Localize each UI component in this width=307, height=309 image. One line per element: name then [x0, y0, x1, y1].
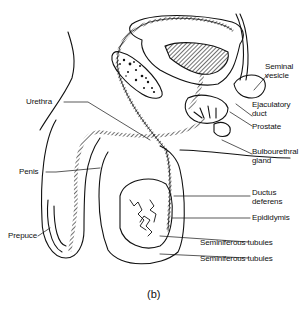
abdomen-outline: [40, 32, 74, 130]
label-penis: Penis: [19, 167, 39, 176]
label-prostate: Prostate: [252, 122, 281, 131]
label-urethra: Urethra: [26, 97, 52, 106]
testis: [120, 179, 172, 248]
label-ejaculatory-duct: Ejaculatory duct: [252, 100, 290, 118]
label-seminiferous-tubules-2: Seminiferous tubules: [200, 254, 273, 263]
label-ductus-deferens: Ductus deferens: [252, 188, 282, 206]
label-prepuce: Prepuce: [8, 231, 37, 240]
scrotum: [99, 146, 184, 264]
seminal-vesicle: [234, 75, 265, 98]
label-seminiferous-tubules-1: Seminiferous tubules: [200, 238, 273, 247]
label-bulbourethral-gland: Bulbourethral gland: [252, 147, 298, 165]
label-epididymis: Epididymis: [252, 213, 290, 222]
label-seminal-vesicle: Seminal vesicle: [265, 62, 293, 80]
bulbourethral-gland: [214, 122, 230, 136]
urethra-tube: [70, 120, 204, 250]
bladder-lumen: [165, 43, 228, 75]
anatomy-diagram: Seminal vesicle Ejaculatory duct Prostat…: [0, 0, 307, 309]
prostate: [185, 95, 228, 123]
figure-caption: (b): [147, 288, 160, 300]
